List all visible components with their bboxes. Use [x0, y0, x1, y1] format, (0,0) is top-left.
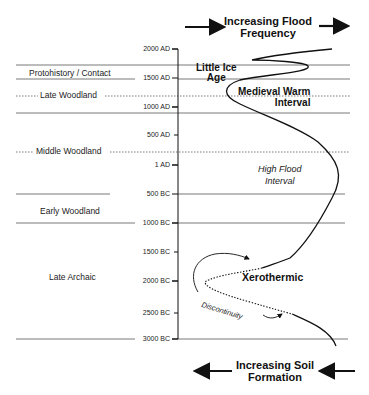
high-flood-line1: High Flood [258, 163, 302, 175]
tick-label: 1 AD [110, 161, 170, 168]
tick-label: 2500 BC [110, 309, 170, 316]
bottom-title-line1: Increasing Soil [232, 359, 318, 371]
top-title-line1: Increasing Flood [222, 15, 314, 27]
tick-label: 1000 BC [110, 219, 170, 226]
tick-label: 500 BC [110, 190, 170, 197]
bottom-title: Increasing Soil Formation [232, 359, 318, 383]
tick-label: 3000 BC [110, 335, 170, 342]
high-flood-interval-label: High Flood Interval [258, 163, 302, 187]
tick-label: 2000 BC [110, 277, 170, 284]
period-label-late-archaic: Late Archaic [49, 272, 96, 282]
little-ice-age-label: Little Ice Age [196, 63, 237, 83]
medieval-warm-label: Medieval Warm Interval [238, 86, 310, 108]
flood-frequency-curve-lower [292, 314, 336, 346]
tick-label: 1500 AD [110, 74, 170, 81]
top-title-line2: Frequency [222, 27, 314, 39]
tick-label: 1000 AD [110, 103, 170, 110]
medieval-line1: Medieval Warm [238, 86, 310, 97]
top-title: Increasing Flood Frequency [222, 15, 314, 39]
xerothermic-label: Xerothermic [242, 271, 303, 283]
flood-frequency-curve [227, 49, 339, 268]
medieval-line2: Interval [238, 97, 310, 108]
period-label-early-woodland: Early Woodland [40, 206, 100, 216]
time-axis [172, 49, 178, 339]
curved-arrow-icon [193, 253, 249, 292]
period-label-late-woodland: Late Woodland [40, 90, 97, 100]
bottom-title-line2: Formation [232, 371, 318, 383]
tick-label: 1500 BC [110, 248, 170, 255]
period-label-protohistory: Protohistory / Contact [29, 68, 111, 78]
little-ice-line2: Age [196, 73, 237, 83]
curved-arrow-icon [263, 314, 282, 318]
high-flood-line2: Interval [258, 175, 302, 187]
tick-label: 2000 AD [110, 45, 170, 52]
tick-label: 500 AD [110, 131, 170, 138]
period-label-middle-woodland: Middle Woodland [36, 146, 102, 156]
flood-frequency-diagram [0, 0, 369, 395]
